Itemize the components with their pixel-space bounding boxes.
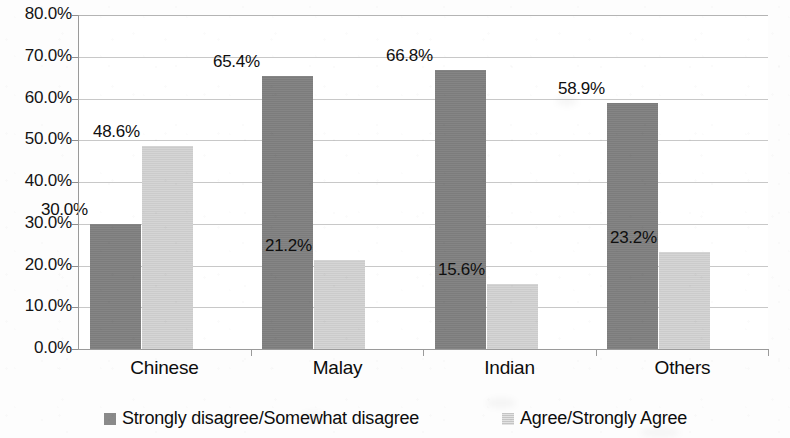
gridline [78,140,768,141]
legend-label: Strongly disagree/Somewhat disagree [122,408,419,429]
y-axis-tick-label: 50.0% [0,129,72,149]
bar-value-label: 66.8% [386,46,433,66]
y-axis-tick-label: 40.0% [0,171,72,191]
bar-chinese-series1[interactable] [90,224,141,349]
bar-indian-series2[interactable] [487,284,538,349]
x-axis-tick [768,349,769,356]
bar-malay-series2[interactable] [314,260,365,349]
bar-indian-series1[interactable] [435,70,486,349]
legend-label: Agree/Strongly Agree [520,408,687,429]
gridline [78,99,768,100]
bar-value-label: 30.0% [41,200,88,220]
bar-others-series2[interactable] [659,252,710,349]
bar-others-series1[interactable] [607,103,658,349]
x-axis-tick [423,349,424,356]
bar-malay-series1[interactable] [262,76,313,349]
bar-chinese-series2[interactable] [142,146,193,349]
x-axis-category-malay: Malay [251,357,424,379]
x-axis-category-indian: Indian [423,357,596,379]
y-axis-tick-label: 80.0% [0,4,72,24]
gridline [78,15,768,16]
y-axis-tick-label: 70.0% [0,46,72,66]
y-axis-tick-label: 20.0% [0,255,72,275]
y-axis-line [78,15,79,350]
bar-value-label: 65.4% [213,52,260,72]
legend-swatch-icon [104,413,116,425]
chart-legend: Strongly disagree/Somewhat disagreeAgree… [0,402,790,432]
x-axis-tick [596,349,597,356]
legend-item-series2[interactable]: Agree/Strongly Agree [502,408,687,429]
bar-chart: 80.0%70.0%60.0%50.0%40.0%30.0%20.0%10.0%… [0,0,790,438]
y-axis-tick-label: 10.0% [0,296,72,316]
x-axis-category-chinese: Chinese [78,357,251,379]
y-axis-tick-label: 0.0% [0,338,72,358]
x-axis-tick [251,349,252,356]
plot-area: 30.0%48.6%65.4%21.2%66.8%15.6%58.9%23.2% [78,15,768,349]
legend-item-series1[interactable]: Strongly disagree/Somewhat disagree [104,408,419,429]
x-axis-category-others: Others [596,357,769,379]
y-axis-tick-label: 60.0% [0,88,72,108]
bar-value-label: 58.9% [558,79,605,99]
bar-value-label: 48.6% [93,122,140,142]
bar-value-label: 23.2% [610,228,657,248]
bar-value-label: 15.6% [438,260,485,280]
legend-swatch-icon [502,413,514,425]
bar-value-label: 21.2% [265,236,312,256]
